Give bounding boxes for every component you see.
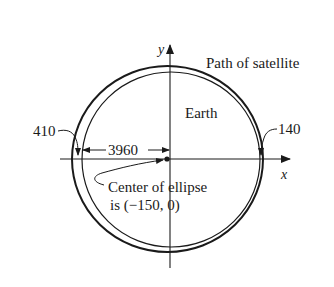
- y-axis-label: y: [156, 42, 165, 57]
- x-axis-label: x: [280, 167, 288, 182]
- left-distance-label: 410: [33, 123, 56, 139]
- ellipse-center-dot: [164, 156, 169, 161]
- center-label-line2: is (−150, 0): [110, 197, 180, 214]
- earth-label: Earth: [185, 105, 218, 121]
- right-distance-label: 140: [278, 121, 301, 137]
- center-label-line1: Center of ellipse: [108, 179, 207, 195]
- path-of-satellite-label: Path of satellite: [206, 55, 300, 71]
- earth-radius-label: 3960: [108, 142, 138, 158]
- satellite-orbit-diagram: y x Path of satellite Earth 410 140 3960…: [0, 0, 334, 287]
